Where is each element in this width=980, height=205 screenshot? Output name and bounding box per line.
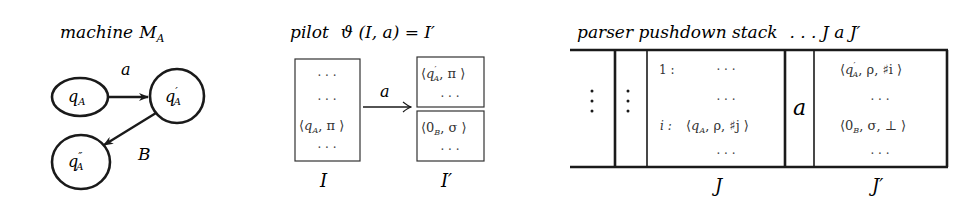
state-qA-prime: q′A — [150, 69, 204, 123]
svg-text:I: I — [319, 170, 328, 191]
pilot-state-I-prime-upper: ⟨q′A, π ⟩ · · · — [417, 57, 484, 107]
pilot-panel: pilotϑ (I, a) = I′ · · · · · · ⟨qA, π ⟩ … — [290, 22, 484, 191]
svg-text:⟨q′A, ρ, ♯i ⟩: ⟨q′A, ρ, ♯i ⟩ — [840, 61, 902, 79]
stack-terminal-a: a — [793, 95, 806, 120]
pilot-title: pilotϑ (I, a) = I′ — [290, 22, 435, 42]
transition-B: B — [104, 113, 156, 164]
pilot-state-I-prime-lower: ⟨0B, σ ⟩ · · · I′ — [417, 111, 484, 191]
svg-text:a: a — [380, 82, 390, 101]
svg-text:J′: J′ — [868, 175, 883, 196]
stack-element-J: 1 : · · · · · · i : ⟨qA, ρ, ♯j ⟩ · · · J — [659, 63, 749, 196]
svg-text:· · ·: · · · — [870, 147, 889, 161]
parser-title: parser pushdown stack. . . J a J′ — [577, 22, 860, 42]
pilot-state-I: · · · · · · ⟨qA, π ⟩ · · · I — [295, 59, 360, 191]
svg-text:· · ·: · · · — [440, 90, 459, 104]
state-qA: qA — [52, 78, 108, 116]
svg-text:I′: I′ — [440, 170, 452, 191]
svg-text:· · ·: · · · — [870, 93, 889, 107]
svg-text:· · ·: · · · — [317, 69, 336, 83]
machine-panel: machineMA qA q′A q″A a B — [52, 22, 204, 189]
svg-text:B: B — [137, 144, 151, 164]
svg-text:· · ·: · · · — [716, 63, 735, 77]
svg-text:· · ·: · · · — [440, 143, 459, 157]
stack-ellipsis-outer — [591, 90, 594, 113]
svg-text:· · ·: · · · — [716, 147, 735, 161]
svg-text:i :: i : — [660, 119, 672, 133]
stack-ellipsis-inner — [627, 90, 630, 113]
svg-text:· · ·: · · · — [317, 93, 336, 107]
svg-text:q″A: q″A — [68, 150, 84, 172]
transition-a: a — [108, 60, 148, 97]
pilot-item-qA: ⟨qA, π ⟩ — [299, 118, 344, 135]
svg-text:· · ·: · · · — [317, 141, 336, 155]
parser-panel: parser pushdown stack. . . J a J′ 1 : · … — [570, 22, 948, 196]
svg-text:J: J — [711, 175, 724, 196]
svg-text:qA: qA — [68, 87, 85, 107]
svg-text:⟨0B, σ ⟩: ⟨0B, σ ⟩ — [421, 120, 467, 137]
svg-text:q′A: q′A — [165, 85, 181, 107]
svg-text:· · ·: · · · — [716, 93, 735, 107]
stack-element-J-prime: ⟨q′A, ρ, ♯i ⟩ · · · ⟨0B, σ, ⊥ ⟩ · · · J′ — [840, 61, 906, 196]
svg-text:⟨0B, σ, ⊥ ⟩: ⟨0B, σ, ⊥ ⟩ — [840, 118, 906, 135]
diagram-canvas: machineMA qA q′A q″A a B pilo — [0, 0, 980, 205]
svg-text:1 :: 1 : — [659, 63, 675, 77]
pilot-transition-a: a — [363, 82, 411, 107]
svg-text:⟨q′A, π ⟩: ⟨q′A, π ⟩ — [421, 65, 465, 83]
svg-text:⟨qA, ρ, ♯j ⟩: ⟨qA, ρ, ♯j ⟩ — [686, 118, 749, 135]
svg-text:a: a — [121, 60, 131, 79]
machine-title: machineMA — [60, 22, 165, 45]
state-qA-double-prime: q″A — [52, 135, 110, 189]
